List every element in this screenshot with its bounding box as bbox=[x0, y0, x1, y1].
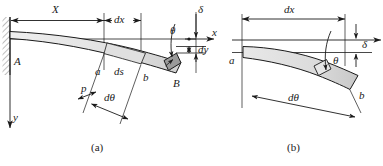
dim-dtheta-b bbox=[252, 90, 361, 117]
label-ds: ds bbox=[114, 66, 124, 77]
label-delta-a: δ bbox=[198, 4, 203, 15]
right-guides-a bbox=[176, 12, 214, 73]
label-point-b-b: b bbox=[359, 90, 365, 101]
label-x-axis-a: x bbox=[212, 27, 217, 38]
label-point-a-b: a bbox=[229, 55, 235, 66]
label-span-X: X bbox=[52, 4, 59, 15]
panel-b-group bbox=[232, 14, 381, 117]
label-dx-b: dx bbox=[284, 4, 294, 15]
deflected-beam-b bbox=[243, 47, 358, 90]
label-point-a: a bbox=[95, 66, 101, 77]
label-theta-a: θ bbox=[170, 25, 175, 36]
fixed-support-wall bbox=[3, 17, 11, 75]
label-y-axis-a: y bbox=[13, 112, 18, 123]
label-dy-a: dy bbox=[198, 44, 208, 55]
label-point-b: b bbox=[143, 72, 149, 83]
label-rho: p bbox=[81, 83, 87, 94]
figure-root: X dx θ δ x dy A y a b B ds p dθ (a) dx δ… bbox=[0, 0, 383, 166]
label-delta-b: δ bbox=[362, 39, 367, 50]
caption-b: (b) bbox=[287, 142, 300, 153]
label-point-A: A bbox=[14, 56, 21, 67]
label-theta-b: θ bbox=[333, 55, 338, 66]
figure-svg bbox=[0, 0, 383, 166]
label-dtheta-b: dθ bbox=[288, 92, 299, 103]
caption-a: (a) bbox=[91, 142, 103, 153]
label-dx-a: dx bbox=[114, 14, 124, 25]
panel-a-group bbox=[3, 12, 215, 128]
beam-element-ds bbox=[104, 43, 146, 64]
dim-lower-a bbox=[78, 54, 141, 124]
label-dtheta-a: dθ bbox=[104, 92, 115, 103]
label-point-B: B bbox=[173, 78, 180, 89]
